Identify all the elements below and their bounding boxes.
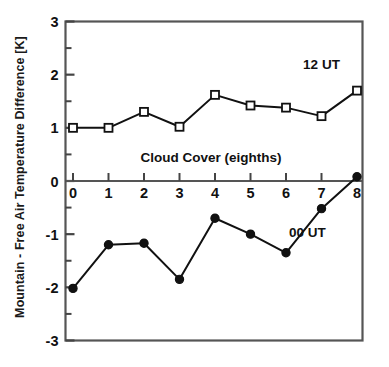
series-label-12-ut: 12 UT [303, 57, 341, 72]
x-tick-label: 6 [282, 185, 290, 201]
chart-figure: Mountain - Free Air Temperature Differen… [0, 0, 389, 367]
data-point-marker [69, 124, 77, 132]
y-tick-label: 0 [50, 174, 58, 190]
y-tick-label: 1 [50, 120, 58, 136]
data-point-marker [282, 249, 290, 257]
data-point-marker [176, 123, 184, 131]
data-point-marker [140, 239, 148, 247]
data-point-marker [211, 91, 219, 99]
y-tick-label: -2 [46, 280, 59, 296]
data-point-marker [175, 275, 183, 283]
series-label-00-ut: 00 UT [289, 225, 327, 240]
x-tick-label: 8 [353, 185, 361, 201]
data-point-marker [105, 124, 113, 132]
y-axis-tick-labels: 3210-1-2-3 [46, 14, 59, 349]
x-tick-label: 2 [140, 185, 148, 201]
x-tick-label: 4 [211, 185, 219, 201]
data-point-marker [247, 102, 255, 110]
data-point-marker [69, 284, 77, 292]
x-tick-label: 5 [246, 185, 254, 201]
data-point-marker [318, 112, 326, 120]
y-tick-label: 3 [50, 14, 58, 30]
data-point-marker [246, 230, 254, 238]
data-point-marker [282, 104, 290, 112]
y-tick-label: -3 [46, 333, 59, 349]
x-tick-label: 0 [69, 185, 77, 201]
x-tick-label: 7 [317, 185, 325, 201]
data-point-marker [317, 205, 325, 213]
data-point-marker [211, 214, 219, 222]
y-tick-label: -1 [46, 227, 59, 243]
x-tick-label: 3 [175, 185, 183, 201]
data-point-marker [353, 173, 361, 181]
data-point-marker [140, 108, 148, 116]
data-point-marker [353, 87, 361, 95]
line-chart-plot: 3210-1-2-3 012345678 Cloud Cover (eighth… [0, 0, 389, 367]
data-point-marker [104, 241, 112, 249]
y-tick-label: 2 [50, 67, 58, 83]
x-axis-title: Cloud Cover (eighths) [141, 150, 282, 165]
x-tick-label: 1 [104, 185, 112, 201]
y-axis-title: Mountain - Free Air Temperature Differen… [13, 7, 27, 347]
